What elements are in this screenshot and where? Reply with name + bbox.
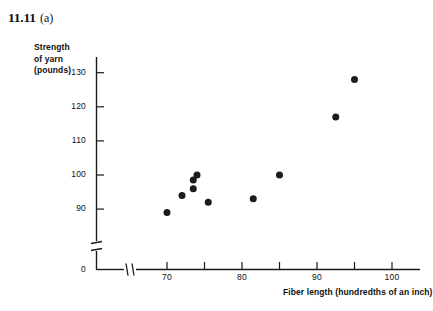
x-axis-break-mark-right <box>132 264 134 276</box>
data-point <box>351 76 358 83</box>
data-point <box>276 172 283 179</box>
data-point <box>190 185 197 192</box>
data-point <box>164 209 171 216</box>
data-point-group <box>164 76 359 216</box>
y-axis-break-mark-upper <box>91 242 102 244</box>
x-axis-break-mark-left <box>126 264 128 276</box>
y-axis-break-mark-lower <box>91 249 102 251</box>
data-point <box>205 199 212 206</box>
data-point <box>194 172 201 179</box>
data-point <box>250 195 257 202</box>
data-point <box>332 114 339 121</box>
data-point <box>179 192 186 199</box>
